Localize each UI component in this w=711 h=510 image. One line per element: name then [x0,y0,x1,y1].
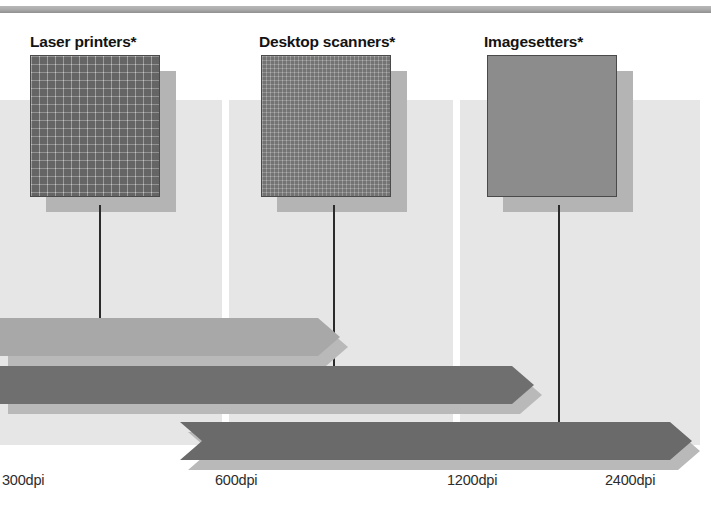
axis-tick-600dpi: 600dpi [215,472,257,488]
axis-tick-1200dpi: 1200dpi [447,472,497,488]
axis-tick-2400dpi: 2400dpi [605,472,655,488]
photo-frame [30,55,160,197]
photo-frame [487,55,617,197]
top-rule [0,6,711,13]
sample-photo-desktop-scanners [261,55,411,215]
photo-inner [488,56,616,196]
axis-tick-300dpi: 300dpi [2,472,44,488]
photo-inner [31,56,159,196]
sample-photo-laser-printers [30,55,180,215]
leader-line-imagesetters [558,205,560,455]
pixelation-overlay [488,56,616,196]
bar-laser-printers [0,318,340,356]
bar-desktop-scanners [0,366,534,404]
column-title-laser-printers: Laser printers* [30,33,136,51]
photo-frame [261,55,391,197]
photo-inner [262,56,390,196]
pixelation-overlay [31,56,159,196]
sample-photo-imagesetters [487,55,637,215]
column-title-imagesetters: Imagesetters* [484,33,583,51]
bar-imagesetters [180,422,692,460]
resolution-comparison-figure: Laser printers* Desktop scanners* Images… [0,0,711,510]
column-title-desktop-scanners: Desktop scanners* [259,33,395,51]
pixelation-overlay [262,56,390,196]
